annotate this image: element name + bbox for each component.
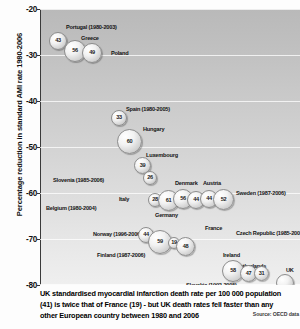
bubble-value-ireland: 58 [230, 268, 236, 274]
point-label-denmark: Denmark [175, 180, 198, 186]
point-label-belgium: Belgium (1980-2004) [46, 205, 96, 211]
point-label-norway: Norway (1996-2006) [93, 231, 142, 237]
y-tick-label: -30 [26, 51, 37, 60]
bubble-value-portugal: 43 [55, 38, 61, 44]
chart-page: -20 -30 -40 -50 -60 -70 -80 Percentage r… [0, 0, 300, 329]
y-tick-mark [37, 285, 40, 286]
point-label-hungary: Hungary [143, 126, 164, 132]
bubble-value-slovakia: 31 [259, 271, 265, 277]
point-label-slovakia: Slovakia (1992-2005) [186, 282, 237, 285]
point-label-poland: Poland [111, 50, 128, 56]
point-label-slovenia: Slovenia (1985-2006) [53, 177, 104, 183]
bubble-uk[interactable]: 41 [276, 274, 294, 285]
bubble-value-germany: 44 [193, 197, 199, 203]
y-axis: -20 -30 -40 -50 -60 -70 -80 Percentage r… [0, 0, 40, 329]
plot-area: Portugal (1980-2003) Greece Poland Spain… [40, 9, 300, 285]
point-label-france: France [205, 225, 222, 231]
point-label-uk: UK [286, 267, 294, 273]
y-tick-label: -80 [26, 281, 37, 290]
caption-line-2: (41) is twice that of France (19) - but … [40, 299, 300, 310]
caption-line-1: UK standardised myocardial infarction de… [40, 288, 300, 299]
point-label-spain: Spain (1980-2005) [126, 106, 170, 112]
bubble-value-denmark: 56 [180, 196, 186, 202]
gridline [40, 284, 300, 285]
point-label-luxembourg: Luxembourg [146, 152, 178, 158]
bubble-value-italy: 28 [152, 197, 158, 203]
bubble-hungary[interactable]: 60 [117, 129, 142, 154]
point-label-ireland: Ireland [223, 252, 240, 258]
point-label-germany: Germany [155, 212, 178, 218]
bubble-value-czech-republic: 48 [183, 244, 189, 250]
y-tick-label: -20 [26, 5, 37, 14]
bubble-value-belgium: 61 [166, 198, 172, 204]
point-label-austria: Austria [203, 180, 221, 186]
point-label-czech-republic: Czech Republic (1985-2006) [236, 230, 300, 237]
bubble-slovakia[interactable]: 31 [254, 266, 269, 281]
bubble-value-poland: 49 [89, 50, 95, 56]
point-label-finland: Finland (1987-2006) [97, 252, 145, 258]
y-tick-label: -60 [26, 189, 37, 198]
chart-caption: UK standardised myocardial infarction de… [40, 288, 300, 329]
gridline [40, 147, 300, 148]
bubble-sweden[interactable]: 52 [213, 189, 234, 210]
bubble-value-sweden: 52 [221, 197, 227, 203]
point-label-greece: Greece [81, 35, 99, 41]
bubble-value-netherlands: 47 [246, 271, 252, 277]
bubble-value-finland: 59 [157, 239, 163, 245]
gridline [40, 9, 300, 10]
point-label-italy: Italy [119, 196, 129, 202]
bubble-value-greece: 56 [72, 48, 78, 54]
bubble-spain[interactable]: 33 [111, 110, 127, 126]
bubble-value-hungary: 60 [127, 139, 133, 145]
bubble-value-austria: 44 [206, 196, 212, 202]
bubble-poland[interactable]: 49 [82, 43, 102, 63]
y-tick-label: -70 [26, 235, 37, 244]
bubble-value-spain: 33 [116, 115, 122, 121]
gridline [40, 101, 300, 102]
bubble-value-luxembourg: 39 [140, 163, 146, 169]
y-axis-title: Percentage reduction in standard AMI rat… [15, 20, 24, 230]
source-note: Source: OECD data [253, 311, 299, 317]
bubble-value-slovenia: 26 [147, 175, 153, 181]
y-tick-label: -50 [26, 143, 37, 152]
point-label-sweden: Sweden (1987-2006) [236, 190, 286, 196]
bubble-slovenia[interactable]: 26 [143, 171, 157, 185]
bubble-czech-republic[interactable]: 48 [176, 237, 195, 256]
point-label-czech-line1: Czech Republic (1985-2006) [236, 230, 300, 236]
y-tick-label: -40 [26, 97, 37, 106]
point-label-portugal: Portugal (1980-2003) [66, 24, 117, 30]
